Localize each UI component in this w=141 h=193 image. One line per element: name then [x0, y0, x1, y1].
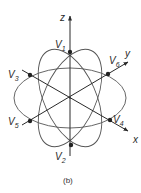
figure-caption: (b) [63, 176, 73, 185]
origin-dot [69, 97, 71, 99]
y-axis-label: y [124, 48, 131, 59]
vertex-v6-label: V6 [109, 55, 120, 68]
vertex-v3-dot [28, 73, 32, 77]
vertex-v2-label: V2 [55, 151, 66, 164]
vertex-v5-dot [28, 119, 32, 123]
z-axis-label: z [59, 12, 65, 23]
vertex-v3-label: V3 [8, 69, 19, 82]
vertex-v6-dot [106, 72, 110, 76]
vertex-v2-dot [69, 143, 73, 147]
x-axis-label: x [132, 134, 139, 145]
vertex-v1-dot [68, 50, 72, 54]
vertex-v4-dot [108, 118, 112, 122]
octahedral-vertex-diagram: z y x V1 V2 V3 V4 V5 V6 (b) [0, 0, 141, 193]
vertex-v5-label: V5 [8, 116, 19, 129]
